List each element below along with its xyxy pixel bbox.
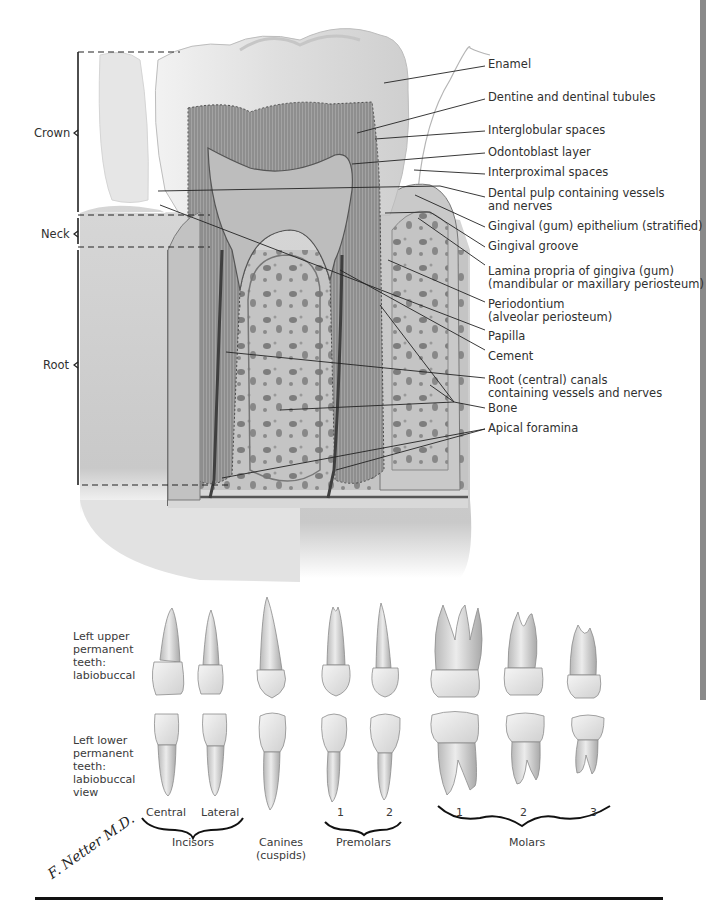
premolar-number-1: 1 <box>337 806 344 819</box>
lower-molar-3 <box>572 715 604 774</box>
upper-premolar-2 <box>372 603 399 697</box>
lower-molar-2 <box>506 713 544 784</box>
upper-canine <box>257 597 286 698</box>
lower-premolar-1 <box>322 714 347 802</box>
upper-molar-1 <box>431 605 482 697</box>
permanent-teeth-illustration <box>0 0 706 902</box>
lower-canine <box>259 713 286 810</box>
molar-number-2: 2 <box>520 806 527 819</box>
premolar-number-2: 2 <box>386 806 393 819</box>
tooth-label-lateral: Lateral <box>201 806 239 819</box>
group-label-premolars: Premolars <box>336 836 391 849</box>
upper-central-incisor <box>152 608 183 695</box>
premolars-brace <box>325 822 401 835</box>
upper-molar-3 <box>567 625 600 698</box>
group-label-incisors: Incisors <box>172 836 214 849</box>
lower-premolar-2 <box>370 714 400 800</box>
molar-number-3: 3 <box>590 806 597 819</box>
lower-molar-1 <box>431 712 479 796</box>
tooth-label-central: Central <box>146 806 186 819</box>
anatomy-plate: Crown Neck Root Enamel Dentine and denti… <box>0 0 706 902</box>
molar-number-1: 1 <box>456 806 463 819</box>
upper-lateral-incisor <box>198 610 223 694</box>
group-label-canines: Canines (cuspids) <box>256 836 306 862</box>
lower-lateral-incisor <box>203 714 227 796</box>
lower-central-incisor <box>154 714 178 796</box>
group-label-molars: Molars <box>509 836 545 849</box>
incisors-brace <box>142 818 243 838</box>
bottom-rule <box>35 897 663 900</box>
upper-molar-2 <box>504 612 543 695</box>
upper-premolar-1 <box>322 607 350 696</box>
